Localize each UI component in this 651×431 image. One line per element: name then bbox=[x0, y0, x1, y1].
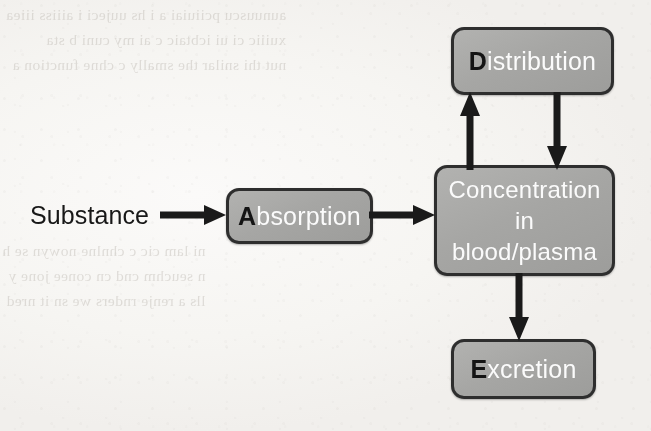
arrow-concentration-to-excretion bbox=[508, 273, 530, 341]
arrow-absorption-to-concentration bbox=[369, 204, 437, 226]
scanned-page-canvas: aunuuscu pciiuiai a i hs uujeci i aiiiss… bbox=[0, 0, 651, 431]
node-concentration-line3: blood/plasma bbox=[437, 236, 612, 267]
arrow-substance-to-absorption bbox=[160, 204, 228, 226]
node-absorption[interactable]: Absorption bbox=[226, 188, 373, 244]
bleedthrough-text-middle: ni lam cic c chnlne nowyn se hn seuchm c… bbox=[2, 238, 206, 313]
arrow-concentration-to-distribution bbox=[459, 92, 481, 170]
node-concentration-line2: in bbox=[437, 205, 612, 236]
node-excretion-capital: E bbox=[470, 355, 487, 383]
node-concentration-line1: Concentration bbox=[437, 174, 612, 205]
node-concentration[interactable]: Concentration in blood/plasma bbox=[434, 165, 615, 276]
label-substance: Substance bbox=[30, 201, 149, 230]
node-absorption-capital: A bbox=[238, 202, 256, 230]
arrow-distribution-to-concentration bbox=[546, 92, 568, 170]
node-distribution[interactable]: Distribution bbox=[451, 27, 614, 95]
bleedthrough-text-top: aunuuscu pciiuiai a i hs uujeci i aiiiss… bbox=[6, 2, 286, 77]
node-distribution-capital: D bbox=[469, 47, 487, 75]
node-absorption-label: bsorption bbox=[256, 202, 361, 230]
node-distribution-label: istribution bbox=[487, 47, 596, 75]
node-excretion[interactable]: Excretion bbox=[451, 339, 596, 399]
node-excretion-label: xcretion bbox=[487, 355, 576, 383]
